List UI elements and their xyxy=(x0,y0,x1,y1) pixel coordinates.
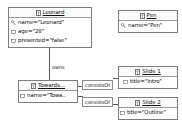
node-slide-1-header: Slide 1 xyxy=(119,67,177,77)
node-slide-2-attributes: title="Outline" xyxy=(119,108,177,117)
table-icon xyxy=(135,100,140,106)
attribute-text: title="Outline" xyxy=(127,109,166,116)
attribute-row[interactable]: name="Leonard" xyxy=(9,18,91,27)
node-slide-1-title: Slide 1 xyxy=(142,68,160,75)
attribute-row[interactable]: name="Towa.. xyxy=(19,91,77,100)
node-pen[interactable]: Pen name="Pen" xyxy=(118,10,178,33)
table-icon xyxy=(140,13,145,19)
node-slide-1[interactable]: Slide 1 title="Intro" xyxy=(118,66,178,89)
node-pen-attributes: name="Pen" xyxy=(119,21,177,30)
column-icon xyxy=(11,38,16,44)
attribute-row[interactable]: title="Outline" xyxy=(119,108,177,117)
diagram-canvas: owns consistsOf consistsOf Leonard name=… xyxy=(0,0,182,129)
edge-label-consists-of-slide1: consistsOf xyxy=(82,80,113,90)
attribute-text: name="Towa.. xyxy=(27,92,66,99)
attribute-text: age="28" xyxy=(18,28,44,35)
node-leonard[interactable]: Leonard name="Leonard" age="28" presente… xyxy=(8,7,92,48)
key-icon xyxy=(11,20,16,26)
table-icon xyxy=(36,10,41,16)
attribute-row[interactable]: title="Intro" xyxy=(119,77,177,86)
node-leonard-attributes: name="Leonard" age="28" presented="false… xyxy=(9,18,91,45)
column-icon xyxy=(11,29,16,35)
attribute-row[interactable]: age="28" xyxy=(9,27,91,36)
node-towards-header: Towards... xyxy=(19,81,77,91)
attribute-text: title="Intro" xyxy=(130,78,162,85)
node-slide-2[interactable]: Slide 2 title="Outline" xyxy=(118,97,178,120)
attribute-text: presented="false" xyxy=(18,37,67,44)
attribute-text: name="Leonard" xyxy=(18,19,64,26)
node-towards[interactable]: Towards... name="Towa.. xyxy=(18,80,78,103)
table-icon xyxy=(31,83,36,89)
node-leonard-header: Leonard xyxy=(9,8,91,18)
edge-label-owns: owns xyxy=(51,64,66,70)
node-slide-1-attributes: title="Intro" xyxy=(119,77,177,86)
node-slide-2-title: Slide 2 xyxy=(142,99,160,106)
node-pen-header: Pen xyxy=(119,11,177,21)
column-icon xyxy=(123,79,128,85)
node-pen-title: Pen xyxy=(147,12,157,19)
attribute-row[interactable]: presented="false" xyxy=(9,36,91,45)
node-slide-2-header: Slide 2 xyxy=(119,98,177,108)
table-icon xyxy=(135,69,140,75)
edge-owns-line xyxy=(49,47,50,80)
key-icon xyxy=(121,23,126,29)
node-towards-attributes: name="Towa.. xyxy=(19,91,77,100)
attribute-row[interactable]: name="Pen" xyxy=(119,21,177,30)
column-icon xyxy=(120,110,125,116)
column-icon xyxy=(20,93,25,99)
node-towards-title: Towards... xyxy=(38,82,65,89)
attribute-text: name="Pen" xyxy=(128,22,162,29)
edge-label-consists-of-slide2: consistsOf xyxy=(82,97,113,107)
node-leonard-title: Leonard xyxy=(43,9,65,16)
